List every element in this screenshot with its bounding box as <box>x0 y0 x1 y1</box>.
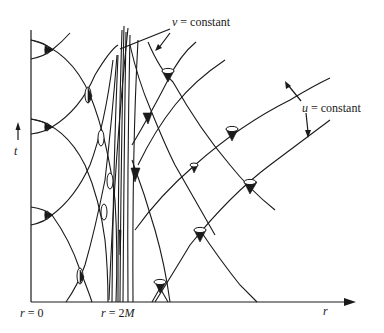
svg-text:v = constant: v = constant <box>172 15 231 29</box>
u-pointer-up-line <box>288 85 301 101</box>
u-constant-text: = constant <box>308 101 361 115</box>
exterior-ingoing-curve <box>200 230 257 302</box>
horizon-line <box>128 35 130 302</box>
r-zero-label: r = 0 <box>20 306 43 320</box>
light-cone-icon <box>194 227 206 242</box>
u-pointer-down-line <box>306 113 308 132</box>
r-axis-label: r <box>323 304 328 318</box>
svg-text:u = constant: u = constant <box>302 101 361 115</box>
light-cone-icon <box>107 173 113 189</box>
r-horizon-text: = 2 <box>106 306 125 320</box>
v-constant-annotation: v = constant <box>120 15 231 51</box>
exterior-outgoing-curve <box>155 120 330 302</box>
u-constant-annotation: u = constant <box>285 81 361 138</box>
r-zero-text: = 0 <box>25 306 44 320</box>
r-horizon-mass: M <box>123 306 135 320</box>
t-axis-label: t <box>14 144 18 158</box>
v-constant-text: = constant <box>177 15 230 29</box>
r-axis-arrow-icon <box>344 298 356 306</box>
light-cone-icon <box>101 204 107 220</box>
light-cone-icon <box>143 113 152 124</box>
interior-light-cones <box>45 46 113 284</box>
light-cone-icon <box>202 0 212 4</box>
exterior-ingoing-curve <box>148 42 275 210</box>
interior-curve <box>52 215 92 302</box>
schwarzschild-diagram: v = constant u = constant t r r = 0 r = … <box>0 0 384 333</box>
exterior-outgoing-curve <box>132 42 196 145</box>
r-horizon-label: r = 2M <box>101 306 135 320</box>
light-cone-icon <box>162 68 174 82</box>
interior-curve <box>31 40 117 302</box>
exterior-curves <box>130 42 330 302</box>
light-cone-icon <box>98 130 104 146</box>
interior-curves <box>31 33 118 302</box>
u-pointer-down-icon <box>305 130 311 138</box>
t-arrow-icon <box>16 122 21 130</box>
interior-curve <box>31 45 118 127</box>
